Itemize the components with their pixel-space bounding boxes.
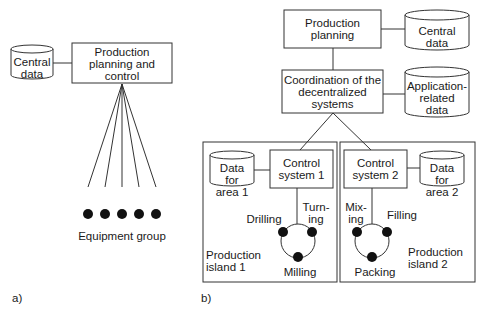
packing-label: Packing: [352, 266, 398, 278]
control-system-1: Control system 1: [270, 157, 333, 181]
application-data: Application- related data: [405, 80, 469, 116]
central-data-b: Central data: [405, 25, 469, 49]
milling-label: Milling: [280, 266, 320, 278]
coordination-box: Coordination of the decentralized system…: [282, 74, 383, 110]
filling-label: Filling: [382, 209, 422, 221]
production-planning: Production planning: [284, 17, 381, 41]
data-area-2: Data for area 2: [420, 162, 464, 198]
central-data-a: Central data: [11, 56, 53, 80]
mixing-label: Mix- ing: [341, 201, 371, 225]
data-area-1: Data for area 1: [210, 162, 254, 198]
turning-label: Turn- ing: [300, 201, 332, 225]
island-1-name: Production island 1: [206, 249, 261, 273]
drilling-label: Drilling: [244, 213, 284, 225]
label-a: a): [12, 292, 22, 304]
label-b: b): [201, 292, 211, 304]
equipment-group-label: Equipment group: [72, 230, 172, 242]
island-2-name: Production island 2: [408, 246, 463, 270]
control-system-2: Control system 2: [344, 157, 407, 181]
ppc-label: Production planning and control: [72, 46, 172, 82]
